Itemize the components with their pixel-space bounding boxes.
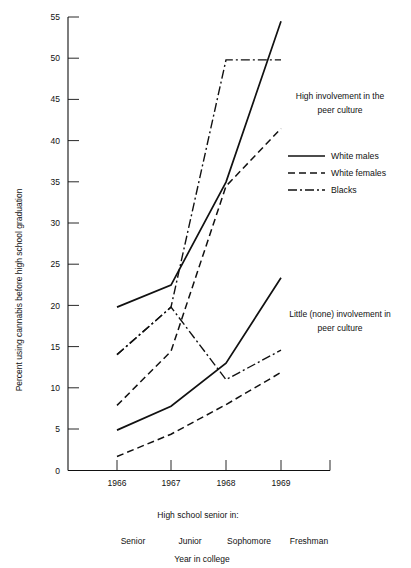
college-year-junior: Junior	[178, 536, 201, 546]
x-axis-caption-top: High school senior in:	[157, 510, 238, 520]
annotation-low-involvement-line2: peer culture	[318, 323, 363, 333]
legend-label-white-females: White females	[331, 168, 387, 178]
y-tick-label-5: 5	[55, 424, 60, 434]
y-tick-label-40: 40	[51, 136, 61, 146]
y-tick-label-15: 15	[51, 342, 61, 352]
college-year-sophomore: Sophomore	[227, 536, 271, 546]
x-ticks	[117, 460, 330, 471]
y-axis-title: Percent using cannabis before high schoo…	[14, 188, 24, 391]
x-axis-caption-bottom: Year in college	[174, 554, 230, 564]
annotation-high-involvement-line1: High involvement in the	[296, 91, 385, 101]
y-tick-label-0: 0	[55, 466, 60, 476]
line-chart-svg: Percent using cannabis before high schoo…	[0, 0, 411, 568]
y-tick-label-10: 10	[51, 383, 61, 393]
y-tick-label-35: 35	[51, 177, 61, 187]
y-tick-label-25: 25	[51, 259, 61, 269]
college-year-senior: Senior	[121, 536, 146, 546]
legend-label-white-males: White males	[331, 151, 379, 161]
x-tick-label-1968: 1968	[217, 478, 236, 488]
series-high-blacks	[117, 60, 281, 355]
y-tick-label-50: 50	[51, 53, 61, 63]
series-low-white-males	[117, 278, 281, 430]
legend: White males White females Blacks	[288, 151, 387, 195]
y-tick-label-45: 45	[51, 94, 61, 104]
y-tick-label-55: 55	[51, 12, 61, 22]
college-year-freshman: Freshman	[290, 536, 329, 546]
series-high-white-males	[117, 21, 281, 307]
x-tick-label-1969: 1969	[272, 478, 291, 488]
y-tick-label-20: 20	[51, 301, 61, 311]
x-tick-label-1966: 1966	[108, 478, 127, 488]
chart-figure: Percent using cannabis before high schoo…	[0, 0, 411, 568]
y-tick-label-30: 30	[51, 218, 61, 228]
annotation-high-involvement-line2: peer culture	[318, 105, 363, 115]
annotation-low-involvement-line1: Little (none) involvement in	[289, 309, 391, 319]
legend-label-blacks: Blacks	[331, 185, 357, 195]
series-low-blacks	[117, 307, 281, 380]
x-tick-label-1967: 1967	[162, 478, 181, 488]
series-high-white-females	[117, 129, 281, 406]
y-ticks	[68, 17, 79, 471]
